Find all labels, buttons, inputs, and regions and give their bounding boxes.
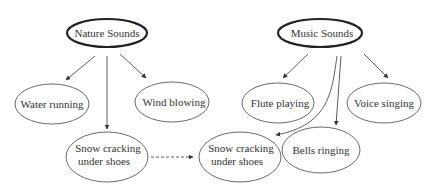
node-label: Bells ringing xyxy=(292,144,350,156)
node-label: Voice singing xyxy=(354,97,414,109)
node-label: Flute playing xyxy=(251,97,310,109)
node-label-line-1: Snow cracking xyxy=(75,142,141,154)
node-label-line-1: Snow cracking xyxy=(208,142,274,154)
node-label: Wind blowing xyxy=(143,96,206,108)
node-snow-cracking-nature: Snow cracking under shoes xyxy=(66,132,148,182)
edge-music-voice xyxy=(364,54,388,78)
node-music-sounds: Music Sounds xyxy=(278,19,362,47)
edge-music-flute xyxy=(283,54,308,78)
edge-music-bells xyxy=(336,56,341,125)
node-bells-ringing: Bells ringing xyxy=(282,127,360,173)
node-label: Water running xyxy=(21,98,84,110)
edge-nature-water xyxy=(66,56,95,80)
node-label-line-2: under shoes xyxy=(78,155,130,167)
node-snow-cracking-music: Snow cracking under shoes xyxy=(199,132,281,182)
node-wind-blowing: Wind blowing xyxy=(135,82,209,122)
sound-categories-diagram: Nature Sounds Music Sounds Water running… xyxy=(0,0,428,187)
node-nature-sounds: Nature Sounds xyxy=(67,19,147,47)
node-label: Music Sounds xyxy=(291,27,354,39)
node-label-line-2: under shoes xyxy=(211,155,263,167)
node-water-running: Water running xyxy=(15,84,89,124)
node-voice-singing: Voice singing xyxy=(347,83,421,123)
node-label: Nature Sounds xyxy=(74,27,139,39)
edge-nature-wind xyxy=(120,54,146,78)
node-flute-playing: Flute playing xyxy=(242,83,314,123)
